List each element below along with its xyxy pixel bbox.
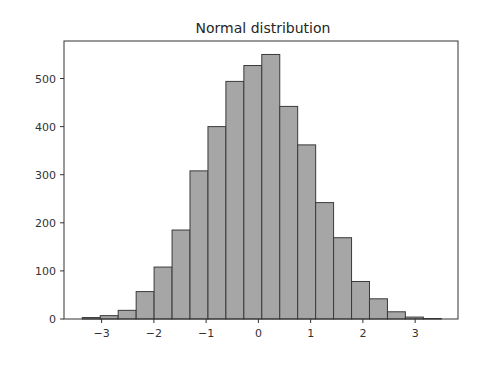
y-tick-label: 100 — [35, 265, 56, 278]
y-tick-label: 400 — [35, 121, 56, 134]
histogram-bar — [316, 203, 334, 319]
histogram-bar — [154, 267, 172, 319]
y-tick-label: 200 — [35, 217, 56, 230]
histogram-bar — [100, 316, 118, 319]
x-tick-label: −3 — [94, 327, 110, 340]
histogram-bar — [334, 238, 352, 319]
x-tick-label: 0 — [255, 327, 262, 340]
histogram-bar — [352, 281, 370, 319]
histogram-bar — [244, 66, 262, 319]
x-tick-label: −1 — [198, 327, 214, 340]
histogram-bar — [208, 127, 226, 319]
x-axis-ticks: −3−2−10123 — [94, 319, 419, 340]
histogram-bar — [226, 81, 244, 319]
histogram-chart: Normal distribution −3−2−10123 010020030… — [0, 0, 485, 372]
y-axis-ticks: 0100200300400500 — [35, 73, 64, 326]
bars — [82, 54, 441, 319]
histogram-bar — [190, 171, 208, 319]
y-tick-label: 500 — [35, 73, 56, 86]
histogram-bar — [262, 54, 280, 319]
y-tick-label: 300 — [35, 169, 56, 182]
histogram-bar — [387, 312, 405, 319]
histogram-bar — [118, 310, 136, 319]
histogram-bar — [136, 292, 154, 319]
y-tick-label: 0 — [49, 313, 56, 326]
x-tick-label: 2 — [359, 327, 366, 340]
histogram-bar — [298, 145, 316, 319]
x-tick-label: 3 — [412, 327, 419, 340]
chart-title: Normal distribution — [196, 20, 331, 36]
histogram-bar — [369, 299, 387, 319]
x-tick-label: 1 — [307, 327, 314, 340]
x-tick-label: −2 — [146, 327, 162, 340]
histogram-bar — [280, 106, 298, 319]
histogram-bar — [172, 230, 190, 319]
